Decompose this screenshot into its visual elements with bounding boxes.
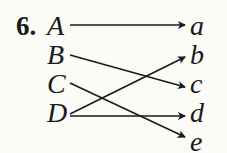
arrow-c-to-e — [70, 83, 185, 137]
arrow-d-to-b — [70, 57, 185, 114]
mapping-diagram: 6. A B C D a b c d e — [0, 0, 227, 153]
arrows-layer — [0, 0, 227, 153]
arrow-b-to-c — [70, 55, 185, 87]
